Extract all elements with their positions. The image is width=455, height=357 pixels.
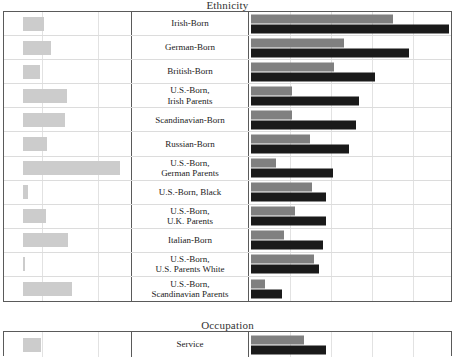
category-label-line2: U.S. Parents White xyxy=(156,264,225,275)
black-bar xyxy=(251,217,326,226)
gridline xyxy=(98,181,99,204)
left-bar xyxy=(23,282,72,296)
ethnicity-row-list: Irish-BornGerman-BornBritish-BornU.S.-Bo… xyxy=(4,12,451,301)
left-chart-cell xyxy=(4,132,132,155)
right-chart-cell xyxy=(249,277,451,301)
black-bar xyxy=(251,24,449,33)
gridline xyxy=(42,60,43,83)
category-label-line2: U.K. Parents xyxy=(167,216,213,227)
black-bar xyxy=(251,120,356,129)
black-bar xyxy=(251,345,326,354)
left-chart-cell xyxy=(4,253,132,276)
category-label-cell: Italian-Born xyxy=(132,229,249,252)
black-bar xyxy=(251,193,326,202)
bar-pair xyxy=(251,86,451,105)
gray-bar xyxy=(251,86,292,95)
left-chart-cell xyxy=(4,277,132,301)
right-chart-cell xyxy=(249,84,451,107)
ethnicity-panel-title: Ethnicity xyxy=(0,0,455,11)
left-chart-cell xyxy=(4,205,132,228)
left-chart-cell xyxy=(4,157,132,180)
gridline xyxy=(98,132,99,155)
left-bar xyxy=(23,257,25,271)
occupation-row-list: Service xyxy=(4,332,451,356)
bar-pair xyxy=(251,207,451,226)
gridline xyxy=(98,205,99,228)
left-bar xyxy=(23,41,51,55)
left-chart-cell xyxy=(4,229,132,252)
bar-pair xyxy=(251,159,451,178)
category-label-line1: U.S.-Born, xyxy=(156,254,225,265)
left-bar xyxy=(23,338,41,352)
gray-bar xyxy=(251,255,314,264)
category-label-cell: U.S.-Born,U.K. Parents xyxy=(132,205,249,228)
table-row: Scandinavian-Born xyxy=(4,108,451,132)
gridline xyxy=(98,253,99,276)
gray-bar xyxy=(251,62,334,71)
category-label-line2: Irish Parents xyxy=(167,96,212,107)
gray-bar xyxy=(251,135,310,144)
black-bar xyxy=(251,72,375,81)
table-row: U.S.-Born,U.S. Parents White xyxy=(4,253,451,277)
bar-pair xyxy=(251,183,451,202)
gray-bar xyxy=(251,335,304,344)
category-label-cell: German-Born xyxy=(132,36,249,59)
gray-bar xyxy=(251,231,284,240)
gray-bar xyxy=(251,110,292,119)
table-row: Service xyxy=(4,332,451,357)
table-row: U.S.-Born,Scandinavian Parents xyxy=(4,277,451,301)
black-bar xyxy=(251,96,359,105)
gridline xyxy=(98,108,99,131)
right-chart-cell xyxy=(249,332,451,357)
table-row: U.S.-Born,U.K. Parents xyxy=(4,205,451,229)
left-bar xyxy=(23,185,28,199)
left-bar xyxy=(23,89,67,103)
gray-bar xyxy=(251,183,312,192)
black-bar xyxy=(251,241,323,250)
gridline xyxy=(98,84,99,107)
bar-pair xyxy=(251,255,451,274)
category-label-line1: U.S.-Born, Black xyxy=(159,187,222,198)
category-label-line1: U.S.-Born, xyxy=(167,85,212,96)
bar-pair xyxy=(251,14,451,33)
right-chart-cell xyxy=(249,12,451,35)
category-label-line1: British-Born xyxy=(167,66,213,77)
black-bar xyxy=(251,265,319,274)
category-label-cell: British-Born xyxy=(132,60,249,83)
left-chart-cell xyxy=(4,181,132,204)
category-label-line1: Italian-Born xyxy=(168,235,212,246)
category-label-cell: U.S.-Born,U.S. Parents White xyxy=(132,253,249,276)
table-row: U.S.-Born,German Parents xyxy=(4,157,451,181)
occupation-panel: Service xyxy=(3,331,452,356)
category-label-cell: U.S.-Born,German Parents xyxy=(132,157,249,180)
category-label-cell: U.S.-Born, Black xyxy=(132,181,249,204)
bar-pair xyxy=(251,335,451,354)
category-label-line1: U.S.-Born, xyxy=(167,206,213,217)
right-chart-cell xyxy=(249,36,451,59)
gridline xyxy=(98,332,99,357)
black-bar xyxy=(251,145,349,154)
right-chart-cell xyxy=(249,108,451,131)
right-chart-cell xyxy=(249,253,451,276)
table-row: U.S.-Born, Black xyxy=(4,181,451,205)
right-chart-cell xyxy=(249,157,451,180)
gray-bar xyxy=(251,207,295,216)
category-label-line2: Scandinavian Parents xyxy=(151,289,228,300)
left-bar xyxy=(23,137,47,151)
category-label-cell: U.S.-Born,Irish Parents xyxy=(132,84,249,107)
category-label-cell: Irish-Born xyxy=(132,12,249,35)
category-label-line1: Russian-Born xyxy=(165,139,215,150)
gridline xyxy=(42,332,43,357)
table-row: Irish-Born xyxy=(4,12,451,36)
table-row: German-Born xyxy=(4,36,451,60)
gray-bar xyxy=(251,280,265,289)
category-label-line2: German Parents xyxy=(161,168,219,179)
category-label-line1: U.S.-Born, xyxy=(151,279,228,290)
bar-pair xyxy=(251,110,451,129)
category-label-line1: U.S.-Born, xyxy=(161,158,219,169)
left-chart-cell xyxy=(4,84,132,107)
table-row: Russian-Born xyxy=(4,132,451,156)
left-bar xyxy=(23,161,120,175)
black-bar xyxy=(251,290,282,299)
category-label-line1: Service xyxy=(177,339,204,350)
